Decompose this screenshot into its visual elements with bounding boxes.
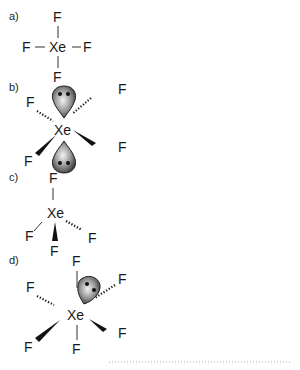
molecule-diagram: a) F F Xe F F b) Xe F F F F c) F: [0, 0, 300, 370]
lone-pair-lobe: [52, 141, 75, 173]
central-atom-xe: Xe: [47, 205, 64, 221]
ligand-f: F: [26, 94, 35, 110]
ligand-f: F: [24, 339, 33, 355]
wedge-bond: [35, 135, 56, 156]
ligand-f: F: [118, 325, 127, 341]
panel-d: d) F F F Xe F F F: [9, 253, 127, 357]
panel-b: b) Xe F F F F: [9, 81, 127, 173]
ligand-f: F: [72, 341, 81, 357]
ligand-f: F: [83, 39, 92, 55]
panel-c: c) F Xe F F F: [9, 170, 97, 259]
ligand-f: F: [118, 271, 127, 287]
wedge-bond: [73, 130, 96, 146]
panel-b-label: b): [9, 81, 19, 93]
ligand-f: F: [72, 253, 81, 269]
ligand-f: F: [49, 170, 58, 186]
central-atom-xe: Xe: [67, 307, 84, 323]
ligand-f: F: [118, 81, 127, 97]
ligand-f: F: [24, 153, 33, 169]
ligand-f: F: [26, 279, 35, 295]
ligand-f: F: [53, 9, 62, 25]
central-atom-xe: Xe: [54, 122, 71, 138]
ligand-f: F: [50, 243, 59, 259]
panel-c-label: c): [9, 171, 18, 183]
lone-pair-lobe: [78, 276, 100, 304]
ligand-f: F: [118, 139, 127, 155]
ligand-f: F: [25, 228, 34, 244]
ligand-f: F: [53, 69, 62, 85]
wedge-bond: [35, 320, 60, 342]
ligand-f: F: [88, 230, 97, 246]
panel-a-label: a): [9, 10, 19, 22]
panel-a: a) F F Xe F F: [9, 9, 92, 85]
wedge-bond: [89, 319, 107, 332]
panel-d-label: d): [9, 254, 19, 266]
wedge-bond: [52, 222, 58, 241]
lone-pair-lobe: [52, 86, 75, 118]
central-atom-xe: Xe: [49, 39, 66, 55]
ligand-f: F: [22, 39, 31, 55]
